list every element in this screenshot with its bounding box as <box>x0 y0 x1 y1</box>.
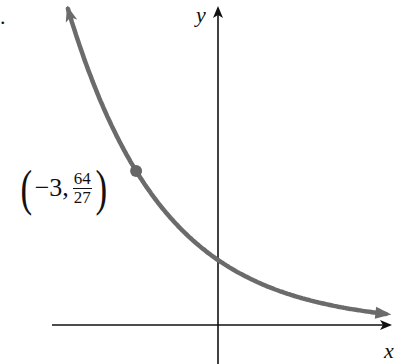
problem-marker: . <box>0 4 6 30</box>
point-y-fraction: 64 27 <box>73 170 92 207</box>
y-axis-label: y <box>196 2 206 28</box>
fraction-numerator: 64 <box>73 170 92 189</box>
x-axis-label: x <box>384 338 394 364</box>
point-label: ( −3, 64 27 ) <box>18 158 109 218</box>
curve-arrow-right-icon <box>375 307 392 319</box>
point-marker <box>130 165 142 177</box>
open-paren: ( <box>20 163 32 213</box>
exponential-curve <box>68 9 386 314</box>
close-paren: ) <box>95 163 107 213</box>
point-x-value: −3, <box>35 173 69 203</box>
fraction-denominator: 27 <box>74 189 91 207</box>
